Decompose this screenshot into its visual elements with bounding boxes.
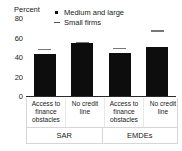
bar-sar-access-to-finance-obstacles xyxy=(34,54,56,97)
y-axis-title: Percent xyxy=(14,6,40,14)
y-tick-60: 60 xyxy=(15,35,23,43)
bar-emdes-no-credit-line xyxy=(146,47,168,97)
group-label: EMDEs xyxy=(127,131,152,140)
category-cell: No credit line xyxy=(65,98,104,127)
marker-small-firms-sar-no-credit-line xyxy=(76,42,89,43)
group-cell-emdes: EMDEs xyxy=(102,127,178,143)
y-tick-80: 80 xyxy=(15,15,23,23)
category-label-line2: line xyxy=(80,108,90,115)
bar-chart: Percent Medium and large Small firms 80 … xyxy=(0,0,182,151)
category-cell: No credit line xyxy=(143,98,182,127)
bar-emdes-access-to-finance-obstacles xyxy=(109,53,131,97)
category-label-line3: obstacles xyxy=(110,116,138,123)
category-label-line2: finance xyxy=(113,108,134,115)
legend-item-medium-and-large: Medium and large xyxy=(52,8,124,17)
category-label: No credit line xyxy=(144,100,182,116)
y-tick-40: 40 xyxy=(15,54,23,62)
plot-area: 80 60 40 20 0 xyxy=(26,19,176,97)
category-label-line3: obstacles xyxy=(32,116,60,123)
y-tick-0: 0 xyxy=(19,93,23,101)
marker-small-firms-sar-access-to-finance-obstacles xyxy=(38,49,51,50)
legend-label: Medium and large xyxy=(64,8,124,17)
bar-sar-no-credit-line xyxy=(71,43,93,97)
category-label-line2: finance xyxy=(35,108,56,115)
category-label-line1: Access to xyxy=(110,100,139,107)
category-label-band: Access to finance obstacles No credit li… xyxy=(26,98,178,128)
category-cell: Access to finance obstacles xyxy=(104,98,143,127)
marker-small-firms-emdes-no-credit-line xyxy=(151,30,164,31)
category-label: No credit line xyxy=(66,100,104,116)
group-label: SAR xyxy=(57,131,72,140)
group-cell-sar: SAR xyxy=(27,127,102,143)
category-label-line1: Access to xyxy=(32,100,61,107)
marker-small-firms-emdes-access-to-finance-obstacles xyxy=(113,48,126,49)
category-label-line2: line xyxy=(158,108,168,115)
category-label-line1: No credit xyxy=(72,100,98,107)
group-label-band: SAR EMDEs xyxy=(26,127,178,144)
category-label: Access to finance obstacles xyxy=(105,100,143,124)
category-label-line1: No credit xyxy=(150,100,176,107)
y-tick-20: 20 xyxy=(15,74,23,82)
legend-square-marker-icon xyxy=(52,11,61,15)
category-label: Access to finance obstacles xyxy=(27,100,65,124)
x-axis-line xyxy=(26,96,176,97)
category-cell: Access to finance obstacles xyxy=(27,98,65,127)
